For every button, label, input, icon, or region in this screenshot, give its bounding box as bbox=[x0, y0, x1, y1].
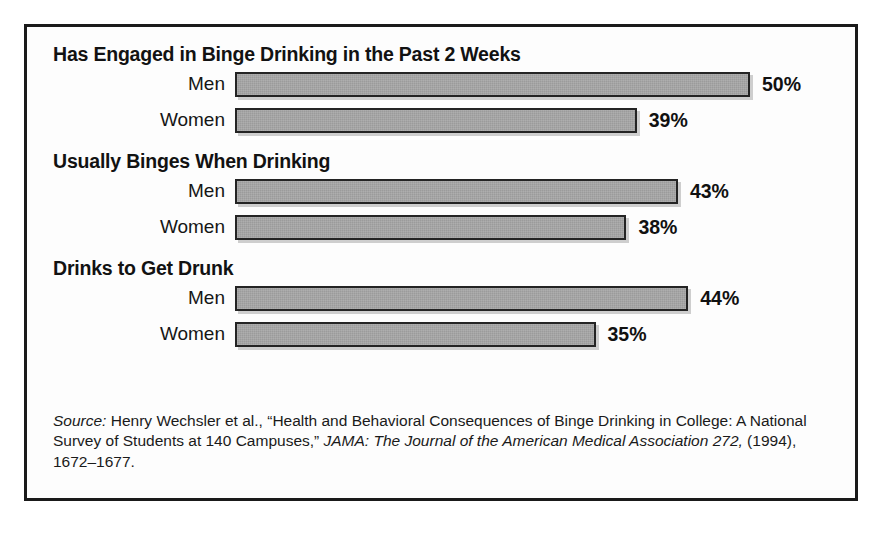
group-title: Usually Binges When Drinking bbox=[53, 148, 855, 174]
chart-group: Usually Binges When Drinking Men 43% Wom… bbox=[27, 148, 855, 242]
bar-women bbox=[235, 215, 626, 240]
bar-men bbox=[235, 286, 688, 311]
bar-row: Women 39% bbox=[27, 105, 855, 135]
bar-value: 38% bbox=[638, 215, 677, 240]
bar-track: 39% bbox=[235, 105, 855, 135]
source-label: Source: bbox=[53, 412, 106, 429]
bar-label: Men bbox=[27, 283, 235, 313]
bar-value: 44% bbox=[700, 286, 739, 311]
source-journal: JAMA: The Journal of the American Medica… bbox=[324, 432, 743, 449]
bar-women bbox=[235, 108, 637, 133]
bar-label: Men bbox=[27, 176, 235, 206]
chart-group: Drinks to Get Drunk Men 44% Women 35% bbox=[27, 255, 855, 349]
bar-value: 35% bbox=[608, 322, 647, 347]
bar-track: 38% bbox=[235, 212, 855, 242]
bar-track: 35% bbox=[235, 319, 855, 349]
bar-track: 43% bbox=[235, 176, 855, 206]
bar-label: Women bbox=[27, 319, 235, 349]
bar-men bbox=[235, 179, 678, 204]
bar-label: Men bbox=[27, 69, 235, 99]
chart-group: Has Engaged in Binge Drinking in the Pas… bbox=[27, 41, 855, 135]
bar-label: Women bbox=[27, 212, 235, 242]
bar-value: 50% bbox=[762, 72, 801, 97]
bar-row: Men 43% bbox=[27, 176, 855, 206]
bar-row: Women 38% bbox=[27, 212, 855, 242]
bar-value: 39% bbox=[649, 108, 688, 133]
figure-frame: Has Engaged in Binge Drinking in the Pas… bbox=[24, 24, 858, 501]
bar-women bbox=[235, 322, 596, 347]
bar-track: 50% bbox=[235, 69, 855, 99]
bar-track: 44% bbox=[235, 283, 855, 313]
bar-row: Men 44% bbox=[27, 283, 855, 313]
source-note: Source: Henry Wechsler et al., “Health a… bbox=[53, 411, 831, 473]
bar-row: Men 50% bbox=[27, 69, 855, 99]
group-title: Drinks to Get Drunk bbox=[53, 255, 855, 281]
group-title: Has Engaged in Binge Drinking in the Pas… bbox=[53, 41, 855, 67]
bar-label: Women bbox=[27, 105, 235, 135]
bar-value: 43% bbox=[690, 179, 729, 204]
bar-row: Women 35% bbox=[27, 319, 855, 349]
bar-men bbox=[235, 72, 750, 97]
